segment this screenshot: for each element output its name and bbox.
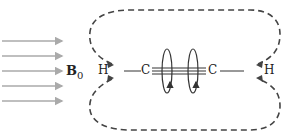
induced-field-lines	[90, 10, 280, 130]
atom-c-left: C	[141, 64, 150, 76]
field-subscript: 0	[77, 70, 83, 81]
atom-c-right: C	[208, 64, 217, 76]
arrowhead-icon	[107, 75, 114, 82]
field-symbol: B	[66, 63, 77, 78]
lower-field-loop	[90, 79, 280, 130]
applied-field-arrows	[2, 41, 62, 101]
atom-h-left: H	[98, 64, 108, 76]
upper-field-loop	[90, 10, 280, 64]
atom-h-right: H	[264, 64, 274, 76]
arrowhead-icon	[256, 75, 263, 82]
field-label: B0	[66, 64, 83, 81]
arrowhead-icon	[256, 61, 263, 68]
